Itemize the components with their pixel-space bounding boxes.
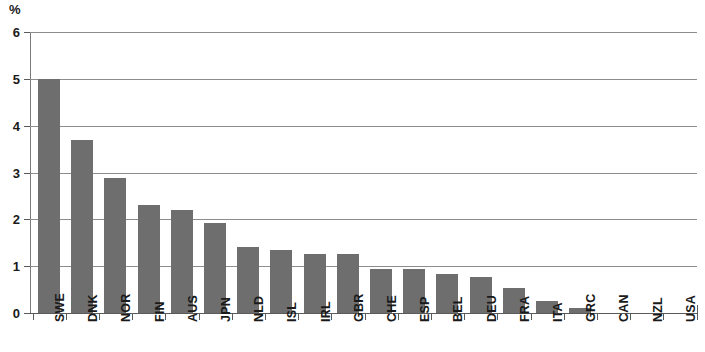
x-tick-label: DEU — [486, 295, 499, 322]
x-tick-label: GBR — [353, 294, 366, 322]
x-tick-label: FRA — [519, 296, 532, 322]
x-tick-mark — [365, 314, 366, 320]
x-tick-mark — [298, 314, 299, 320]
plot-area — [30, 32, 697, 313]
x-tick-mark — [398, 314, 399, 320]
x-tick-mark — [199, 314, 200, 320]
x-tick-label: AUS — [187, 295, 200, 322]
x-tick-mark — [232, 314, 233, 320]
gridline — [30, 266, 697, 267]
x-tick-mark — [697, 314, 698, 320]
x-tick-label: BEL — [452, 296, 465, 322]
x-tick-mark — [497, 314, 498, 320]
bar — [138, 205, 160, 313]
x-tick-label: NLD — [253, 296, 266, 322]
x-tick-mark — [597, 314, 598, 320]
x-tick-label: JPN — [220, 297, 233, 322]
bar-chart: % 0123456 SWEDNKNORFINAUSJPNNLDISLIRLGBR… — [0, 0, 705, 352]
bar — [38, 79, 60, 313]
x-tick-mark — [531, 314, 532, 320]
x-tick-label: NOR — [120, 294, 133, 322]
gridline — [30, 32, 697, 33]
x-tick-label: SWE — [54, 293, 67, 322]
x-tick-mark — [165, 314, 166, 320]
x-tick-label: NZL — [652, 297, 665, 322]
x-tick-label: ISL — [286, 302, 299, 322]
x-tick-mark — [265, 314, 266, 320]
x-tick-mark — [132, 314, 133, 320]
y-axis-unit-label: % — [9, 3, 21, 16]
x-tick-mark — [663, 314, 664, 320]
gridline — [30, 79, 697, 80]
x-tick-mark — [33, 314, 34, 320]
y-tick-label: 2 — [0, 213, 20, 226]
y-tick-label: 5 — [0, 73, 20, 86]
x-tick-mark — [630, 314, 631, 320]
x-tick-label: FIN — [154, 301, 167, 322]
x-tick-mark — [431, 314, 432, 320]
y-tick-label: 1 — [0, 260, 20, 273]
bar — [71, 140, 93, 313]
gridline — [30, 219, 697, 220]
gridline — [30, 126, 697, 127]
x-tick-label: GRC — [585, 294, 598, 322]
x-tick-mark — [564, 314, 565, 320]
x-tick-label: CHE — [386, 295, 399, 322]
gridline — [30, 173, 697, 174]
y-tick-label: 6 — [0, 26, 20, 39]
y-tick-label: 4 — [0, 120, 20, 133]
y-tick-label: 0 — [0, 307, 20, 320]
x-tick-label: ESP — [419, 296, 432, 322]
x-tick-mark — [66, 314, 67, 320]
x-tick-label: ITA — [552, 302, 565, 322]
x-tick-mark — [331, 314, 332, 320]
x-tick-label: IRL — [320, 301, 333, 322]
x-tick-label: CAN — [618, 294, 631, 322]
x-tick-mark — [99, 314, 100, 320]
y-tick-label: 3 — [0, 167, 20, 180]
x-tick-label: USA — [685, 295, 698, 322]
x-tick-mark — [464, 314, 465, 320]
x-tick-label: DNK — [87, 294, 100, 322]
